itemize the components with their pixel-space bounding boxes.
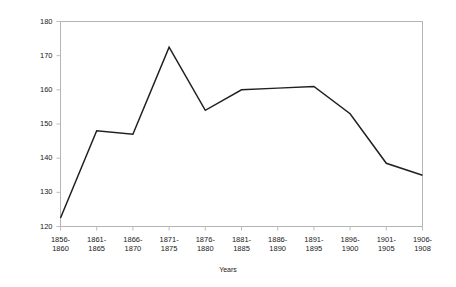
- x-axis-title-text: Years: [219, 266, 237, 273]
- y-tick-label: 130: [27, 188, 53, 196]
- y-tick-label: 150: [27, 120, 53, 128]
- line-chart: Rate/1,000 120130140150160170180 1856-18…: [0, 0, 456, 287]
- y-tick-label: 170: [27, 52, 53, 60]
- plot-frame: [61, 22, 423, 227]
- y-axis-title: Rate/1,000: [5, 0, 25, 20]
- y-tick-label: 180: [27, 18, 53, 26]
- y-tick-label: 120: [27, 223, 53, 231]
- y-tick-marks: [57, 22, 61, 227]
- y-tick-label: 160: [27, 86, 53, 94]
- y-tick-label: 140: [27, 154, 53, 162]
- x-tick-marks: [61, 227, 423, 231]
- data-series-line: [61, 47, 423, 218]
- x-tick-label: 1906-1908: [401, 235, 445, 254]
- x-axis-title: Years: [0, 266, 456, 273]
